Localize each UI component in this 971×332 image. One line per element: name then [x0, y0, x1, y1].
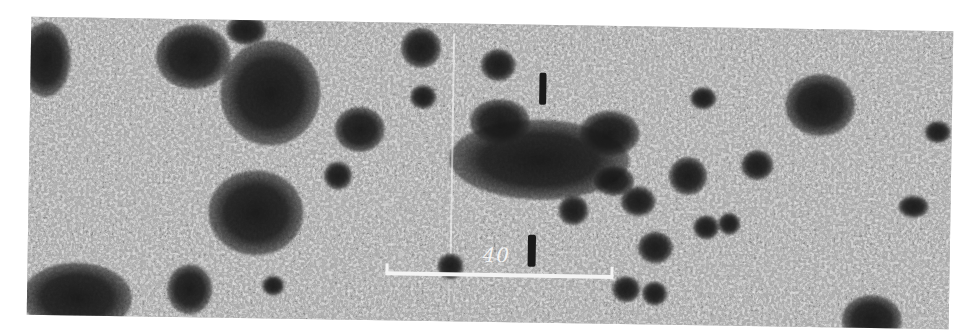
scale-bar-right-tick: [610, 267, 613, 277]
galaxy-blob: [925, 121, 951, 143]
galaxy-blob: [690, 87, 716, 109]
scale-bar-left-tick: [385, 263, 388, 273]
galaxy-blob: [898, 195, 928, 217]
galaxy-blob: [579, 110, 640, 156]
page: 40: [0, 0, 971, 332]
photographic-plate: 40: [27, 17, 954, 329]
marker-bar-top: [539, 73, 547, 105]
marker-bar-bottom: [528, 235, 537, 267]
scale-bar-label: 40: [483, 243, 511, 267]
